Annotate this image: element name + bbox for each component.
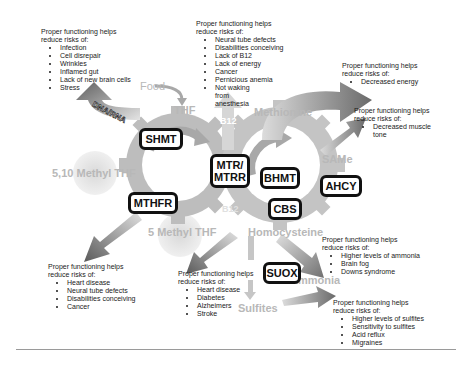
label-b12-top: B12 xyxy=(220,116,237,126)
sulfites-arrow xyxy=(282,286,336,308)
note-mtr: Proper functioning helps reduce risks of… xyxy=(196,20,336,108)
methylation-cycle-diagram: DNA/RNA Food THF B12 Methionine SAMe 5,1… xyxy=(0,0,462,372)
bottom-divider xyxy=(16,349,456,350)
label-homocysteine: Homocysteine xyxy=(248,226,323,238)
note-ammonia: Proper functioning helps reduce risks of… xyxy=(322,236,420,276)
mthfr-down-arrow xyxy=(84,212,142,262)
label-b12-bottom: B12 xyxy=(222,204,239,214)
label-510-methyl-thf: 5,10 Methyl THF xyxy=(52,167,136,179)
enzyme-mthfr: MTHFR xyxy=(128,192,178,214)
label-5-methyl-thf: 5 Methyl THF xyxy=(148,226,216,238)
label-food: Food xyxy=(140,80,165,92)
note-cbs: Proper functioning helps reduce risks of… xyxy=(178,270,254,318)
enzyme-cbs: CBS xyxy=(268,198,302,220)
homocysteine-down-arrow xyxy=(248,236,254,260)
note-sulfites: Proper functioning helps reduce risks of… xyxy=(333,299,424,347)
enzyme-mtr-mtrr: MTR/ MTRR xyxy=(210,154,250,188)
enzyme-suox: SUOX xyxy=(263,262,301,284)
label-same: SAMe xyxy=(322,153,353,165)
enzyme-shmt: SHMT xyxy=(139,128,183,150)
note-methionine: Proper functioning helps reduce risks of… xyxy=(342,62,418,86)
note-shmt: Proper functioning helps reduce risks of… xyxy=(41,28,131,92)
note-mthfr: Proper functioning helps reduce risks of… xyxy=(48,263,135,311)
enzyme-bhmt: BHMT xyxy=(260,167,300,189)
label-thf: THF xyxy=(174,104,195,116)
note-same: Proper functioning helps reduce risks of… xyxy=(354,107,437,139)
enzyme-ahcy: AHCY xyxy=(320,175,362,197)
